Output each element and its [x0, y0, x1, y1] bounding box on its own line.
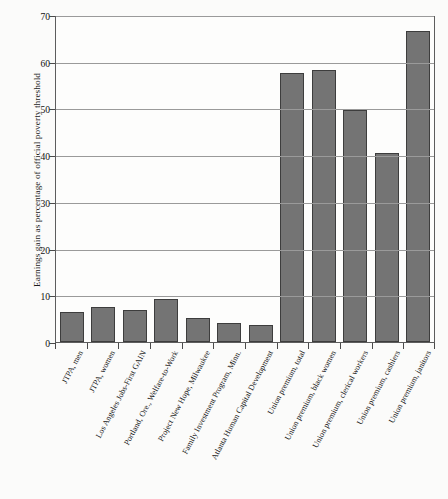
y-axis-title: Earnings gain as percentage of official …	[32, 30, 42, 330]
gridline	[56, 16, 434, 17]
gridline	[56, 203, 434, 204]
bar-group	[403, 17, 435, 342]
y-tick-label: 60	[0, 57, 50, 68]
bar	[343, 110, 367, 342]
bar	[249, 325, 273, 342]
x-tick-label: Atlanta Human Capital Development	[210, 349, 275, 461]
bar-group	[214, 17, 246, 342]
gridline	[56, 109, 434, 110]
bar-group	[119, 17, 151, 342]
bar	[280, 73, 304, 342]
gridline	[56, 156, 434, 157]
bar-group	[56, 17, 88, 342]
y-tick-label: 20	[0, 244, 50, 255]
x-tick-label: Union premium, clerical workers	[311, 349, 370, 449]
bar	[217, 323, 241, 342]
bar-chart-figure: Earnings gain as percentage of official …	[0, 0, 448, 499]
bar-series	[56, 17, 434, 342]
y-tick-label: 40	[0, 151, 50, 162]
x-tick-label: Family Investment Program, Minn.	[181, 349, 243, 456]
y-tick-mark	[49, 250, 55, 251]
y-tick-mark	[49, 156, 55, 157]
y-tick-label: 70	[0, 11, 50, 22]
y-tick-mark	[49, 16, 55, 17]
y-tick-label: 50	[0, 104, 50, 115]
bar	[186, 318, 210, 342]
bar-group	[182, 17, 214, 342]
bar	[312, 70, 336, 342]
bar	[60, 312, 84, 342]
bar	[375, 153, 399, 342]
x-tick-label: JTPA, women	[87, 349, 117, 394]
y-tick-mark	[49, 296, 55, 297]
bar	[91, 307, 115, 342]
bar-group	[371, 17, 403, 342]
bar-group	[88, 17, 120, 342]
gridline	[56, 250, 434, 251]
y-tick-mark	[49, 203, 55, 204]
gridline	[56, 63, 434, 64]
bar-group	[151, 17, 183, 342]
x-tick-label: JTPA, men	[60, 349, 85, 385]
bar-group	[277, 17, 309, 342]
y-tick-label: 10	[0, 291, 50, 302]
x-axis-labels: JTPA, menJTPA, womenLos Angeles Jobs-Fir…	[55, 349, 435, 499]
bar-group	[340, 17, 372, 342]
y-tick-mark	[49, 63, 55, 64]
bar	[154, 299, 178, 342]
bar	[123, 310, 147, 342]
bar-group	[245, 17, 277, 342]
bar-group	[308, 17, 340, 342]
y-tick-mark	[49, 109, 55, 110]
y-tick-label: 0	[0, 338, 50, 349]
gridline	[56, 296, 434, 297]
plot-area	[55, 16, 435, 343]
y-tick-label: 30	[0, 197, 50, 208]
y-tick-mark	[49, 343, 55, 344]
